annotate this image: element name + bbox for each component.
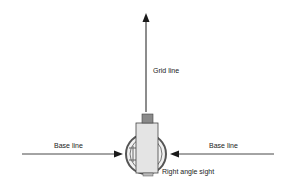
base-line-left-label: Base line	[54, 142, 83, 149]
base-line-right-label: Base line	[209, 142, 238, 149]
diagram-canvas: Grid line Base line Base line Right angl…	[0, 0, 290, 182]
diagram-svg	[0, 0, 290, 182]
base-line-left-arrow	[22, 151, 123, 158]
right-angle-sight-label: Right angle sight	[162, 168, 214, 175]
base-line-right-arrow	[170, 151, 274, 158]
grid-line-arrow	[143, 13, 150, 112]
right-angle-sight-instrument	[126, 114, 166, 176]
grid-line-label: Grid line	[153, 67, 179, 74]
